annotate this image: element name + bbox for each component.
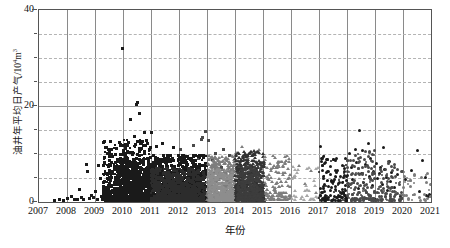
data-point [185, 191, 188, 194]
data-point [107, 165, 110, 168]
data-point [212, 186, 216, 189]
data-point [212, 184, 216, 187]
data-point [216, 194, 220, 197]
data-point [194, 200, 197, 203]
data-point [114, 161, 117, 164]
data-point [157, 184, 160, 187]
data-point [323, 183, 326, 186]
data-point [131, 199, 134, 202]
y-tick-label: 20 [8, 100, 34, 110]
data-point [104, 199, 107, 202]
data-point [305, 188, 309, 191]
data-point [194, 184, 197, 187]
data-point [271, 185, 275, 188]
data-point [169, 173, 171, 175]
y-tick-mark-minor [34, 33, 37, 34]
data-point [258, 197, 262, 200]
horizontal-gridline [39, 154, 431, 155]
data-point [141, 193, 144, 196]
data-point [145, 185, 148, 188]
data-point [106, 196, 109, 199]
data-point [170, 194, 172, 196]
data-point [190, 198, 193, 201]
data-point [202, 198, 205, 201]
data-point [152, 189, 155, 192]
data-point [165, 172, 168, 175]
data-point [182, 155, 184, 157]
data-point [381, 165, 383, 167]
data-point [223, 189, 227, 192]
data-point [174, 193, 176, 195]
data-point [163, 190, 165, 192]
data-point [138, 194, 141, 197]
data-point [165, 193, 167, 195]
data-point [185, 200, 188, 203]
data-point [218, 181, 222, 184]
data-point [249, 182, 253, 185]
data-point [247, 198, 251, 201]
data-point [247, 196, 251, 199]
data-point [357, 172, 360, 175]
data-point [163, 194, 166, 197]
data-point [242, 168, 246, 171]
data-point [223, 197, 227, 200]
data-point [218, 197, 222, 200]
data-point [131, 191, 134, 194]
data-point [192, 181, 195, 184]
data-point [197, 199, 199, 201]
data-point [180, 169, 183, 172]
data-point [238, 193, 242, 196]
data-point [267, 173, 271, 176]
data-point [159, 185, 162, 188]
data-point [200, 186, 203, 189]
data-point [156, 194, 159, 197]
data-point [165, 196, 168, 199]
data-point [246, 194, 250, 197]
data-point [134, 193, 137, 196]
data-point [137, 196, 140, 199]
data-point [209, 171, 213, 174]
data-point [246, 195, 250, 198]
data-point [126, 198, 129, 201]
data-point [196, 171, 198, 173]
data-point [180, 198, 183, 201]
data-point [320, 199, 323, 202]
data-point [218, 197, 222, 200]
data-point [378, 172, 381, 175]
data-point [186, 169, 189, 172]
data-point [184, 200, 187, 203]
data-point [174, 199, 177, 202]
data-point [119, 195, 122, 198]
data-point [396, 173, 399, 176]
data-point [309, 197, 313, 200]
data-point [236, 188, 240, 191]
data-point [243, 182, 247, 185]
data-point [195, 180, 198, 183]
data-point [213, 190, 217, 193]
data-point [201, 200, 204, 203]
data-point [249, 186, 253, 189]
data-point [174, 198, 176, 200]
data-point [242, 184, 246, 187]
data-point [183, 199, 185, 201]
data-point [186, 155, 189, 158]
data-point [212, 193, 216, 196]
data-point [145, 167, 148, 170]
data-point [253, 198, 257, 201]
data-point [126, 199, 129, 202]
data-point [279, 191, 283, 194]
data-point [244, 195, 248, 198]
data-point [251, 196, 255, 199]
horizontal-gridline [39, 34, 431, 35]
data-point [191, 198, 194, 201]
data-point [143, 181, 146, 184]
data-point [350, 187, 352, 189]
data-point [249, 193, 253, 196]
data-point [357, 157, 360, 160]
data-point [118, 141, 121, 144]
data-point [252, 194, 256, 197]
data-point [212, 184, 216, 187]
data-point [368, 198, 371, 201]
data-point [216, 169, 220, 172]
data-point [210, 187, 214, 190]
